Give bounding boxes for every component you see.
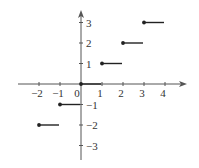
x-tick-label: 2 — [118, 87, 124, 99]
x-tick-label: 4 — [160, 87, 166, 99]
y-tick-label: −2 — [86, 119, 98, 131]
y-tick-label: 1 — [86, 58, 92, 70]
y-tick-label: −1 — [86, 99, 98, 111]
x-tick-label: −2 — [31, 87, 43, 99]
closed-endpoint-dot — [37, 123, 41, 127]
closed-endpoint-dot — [58, 103, 62, 107]
closed-endpoint-dot — [79, 82, 83, 86]
step-function-plot: −2−101234123−1−2−3 — [0, 0, 199, 168]
y-tick-label: 3 — [86, 17, 92, 29]
x-tick-label: 0 — [74, 87, 80, 99]
closed-endpoint-dot — [142, 21, 146, 25]
x-tick-label: −1 — [52, 87, 64, 99]
x-tick-label: 3 — [139, 87, 145, 99]
closed-endpoint-dot — [100, 62, 104, 66]
y-tick-label: −3 — [86, 140, 98, 152]
y-tick-label: 2 — [86, 37, 92, 49]
x-tick-label: 1 — [97, 87, 103, 99]
closed-endpoint-dot — [121, 41, 125, 45]
